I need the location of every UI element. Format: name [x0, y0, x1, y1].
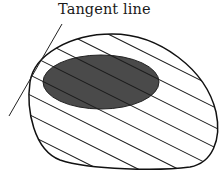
tangent-line-label: Tangent line — [58, 1, 151, 17]
diagram-canvas — [0, 0, 224, 177]
inner-region — [43, 55, 159, 109]
